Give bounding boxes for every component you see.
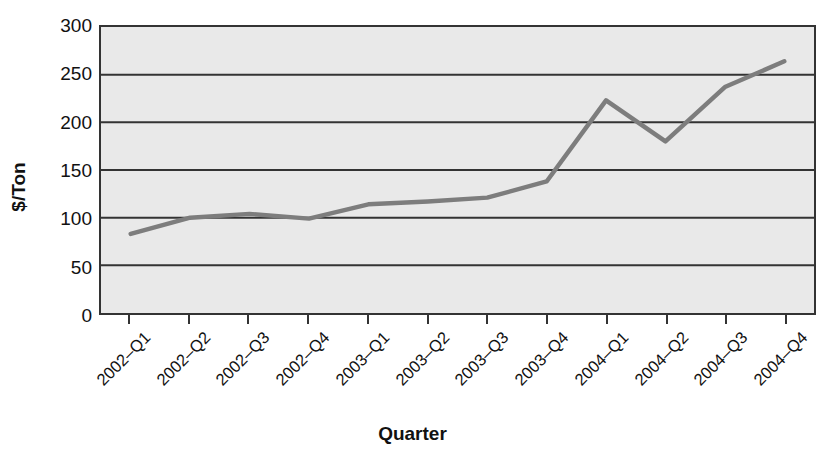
y-tick-label-100: 100: [34, 209, 92, 228]
x-tick-mark-9: [666, 315, 668, 324]
x-tick-label-1: 2002–Q2: [153, 328, 214, 389]
x-tick-mark-5: [427, 315, 429, 324]
x-tick-label-10: 2004–Q3: [690, 328, 751, 389]
x-tick-label-6: 2003–Q3: [451, 328, 512, 389]
y-tick-label-200: 200: [34, 112, 92, 131]
x-axis-title-text: Quarter: [378, 423, 447, 444]
x-tick-mark-7: [546, 315, 548, 324]
y-axis-title: $/Ton: [2, 132, 36, 242]
x-tick-label-11: 2004–Q4: [750, 328, 811, 389]
x-tick-label-0: 2002–Q1: [93, 328, 154, 389]
y-tick-label-300: 300: [34, 16, 92, 35]
x-axis-tick-labels: 2002–Q12002–Q22002–Q32002–Q42003–Q12003–…: [0, 324, 825, 414]
y-tick-label-150: 150: [34, 161, 92, 180]
plot-canvas: [101, 27, 814, 313]
x-tick-label-7: 2003–Q4: [511, 328, 572, 389]
x-tick-mark-0: [128, 315, 130, 324]
x-tick-label-5: 2003–Q2: [392, 328, 453, 389]
plot-area: [99, 25, 816, 315]
x-tick-label-3: 2002–Q4: [272, 328, 333, 389]
x-tick-label-2: 2002–Q3: [212, 328, 273, 389]
y-tick-label-250: 250: [34, 64, 92, 83]
data-series: [131, 61, 785, 234]
y-tick-label-0: 0: [34, 306, 92, 325]
x-tick-mark-2: [247, 315, 249, 324]
x-tick-mark-1: [188, 315, 190, 324]
y-tick-label-50: 50: [34, 257, 92, 276]
x-tick-label-9: 2004–Q2: [631, 328, 692, 389]
x-tick-mark-10: [725, 315, 727, 324]
x-tick-label-4: 2003–Q1: [332, 328, 393, 389]
x-tick-mark-6: [486, 315, 488, 324]
x-tick-mark-11: [785, 315, 787, 324]
x-axis-tick-marks: [99, 315, 816, 324]
x-tick-mark-8: [606, 315, 608, 324]
y-axis-title-text: $/Ton: [8, 162, 30, 211]
x-tick-label-8: 2004–Q1: [571, 328, 632, 389]
series-line-price: [131, 61, 785, 234]
x-tick-mark-3: [307, 315, 309, 324]
x-tick-mark-4: [367, 315, 369, 324]
x-axis-title: Quarter: [0, 423, 825, 445]
chart-figure: $/Ton 050100150200250300 2002–Q12002–Q22…: [0, 0, 825, 453]
